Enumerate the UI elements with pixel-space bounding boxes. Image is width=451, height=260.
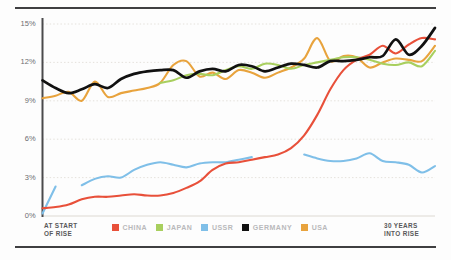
- legend-swatch-icon: [242, 224, 249, 231]
- x-axis-start-label-line2: OF RISE: [44, 230, 77, 238]
- legend-item-ussr[interactable]: USSR: [201, 224, 233, 231]
- y-tick-label: 0%: [8, 211, 36, 220]
- y-tick-label: 12%: [8, 57, 36, 66]
- series-line-ussr: [43, 187, 56, 214]
- legend-item-germany[interactable]: GERMANY: [242, 224, 292, 231]
- y-tick-label: 3%: [8, 173, 36, 182]
- legend-label: JAPAN: [167, 224, 193, 231]
- legend-label: CHINA: [123, 224, 148, 231]
- chart-figure: 15%12%9%6%3%0% AT START OF RISE 30 YEARS…: [0, 0, 451, 260]
- legend-label: GERMANY: [253, 224, 292, 231]
- x-axis-start-label-line1: AT START: [44, 222, 77, 230]
- x-axis-start-label: AT START OF RISE: [44, 222, 77, 238]
- legend-swatch-icon: [301, 224, 308, 231]
- series-line-usa: [43, 38, 436, 101]
- y-tick-label: 6%: [8, 134, 36, 143]
- legend-item-japan[interactable]: JAPAN: [156, 224, 192, 231]
- chart-legend: CHINAJAPANUSSRGERMANYUSA: [112, 224, 328, 231]
- legend-label: USSR: [212, 224, 233, 231]
- legend-item-china[interactable]: CHINA: [112, 224, 147, 231]
- legend-swatch-icon: [112, 224, 119, 231]
- line-chart-plot: [0, 0, 451, 260]
- legend-item-usa[interactable]: USA: [301, 224, 328, 231]
- legend-label: USA: [312, 224, 328, 231]
- series-line-japan: [160, 51, 435, 83]
- x-axis-end-label: 30 YEARS INTO RISE: [384, 222, 419, 238]
- y-tick-label: 15%: [8, 19, 36, 28]
- legend-swatch-icon: [201, 224, 208, 231]
- legend-swatch-icon: [156, 224, 163, 231]
- y-tick-label: 9%: [8, 96, 36, 105]
- bottom-rule: [15, 246, 436, 248]
- series-line-ussr: [304, 153, 435, 172]
- series-lines: [43, 28, 436, 214]
- series-line-china: [43, 38, 436, 208]
- x-axis-end-label-line1: 30 YEARS: [384, 222, 419, 230]
- series-line-ussr: [82, 157, 252, 185]
- series-line-germany: [43, 28, 436, 93]
- gridlines: [43, 24, 436, 216]
- x-axis-end-label-line2: INTO RISE: [384, 230, 419, 238]
